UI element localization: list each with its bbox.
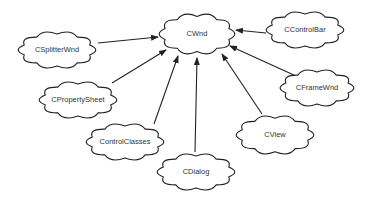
node-label: CPropertySheet	[51, 95, 105, 104]
edge-controlclasses-to-cwnd	[154, 56, 178, 124]
class-nodes: CWndCSplitterWndCControlBarCPropertyShee…	[18, 12, 354, 190]
class-hierarchy-diagram: CWndCSplitterWndCControlBarCPropertyShee…	[0, 0, 375, 202]
node-cframewnd[interactable]: CFrameWnd	[280, 70, 354, 106]
node-ccontrolbar[interactable]: CControlBar	[266, 12, 344, 48]
node-controlclasses[interactable]: ControlClasses	[86, 124, 164, 160]
edge-cdialog-to-cwnd	[195, 58, 197, 152]
node-label: CFrameWnd	[296, 83, 339, 92]
edge-cframewnd-to-cwnd	[230, 46, 296, 76]
node-label: ControlClasses	[100, 137, 151, 146]
node-cpropertysheet[interactable]: CPropertySheet	[39, 82, 117, 118]
edge-ccontrolbar-to-cwnd	[236, 30, 266, 33]
node-cwnd[interactable]: CWnd	[159, 14, 235, 54]
node-label: CControlBar	[284, 25, 326, 34]
edge-csplitterwnd-to-cwnd	[98, 37, 158, 43]
node-label: CWnd	[187, 29, 208, 38]
node-csplitterwnd[interactable]: CSplitterWnd	[18, 32, 96, 68]
node-cview[interactable]: CView	[236, 116, 314, 154]
node-label: CDialog	[183, 167, 210, 176]
node-label: CView	[264, 130, 286, 139]
node-label: CSplitterWnd	[35, 45, 79, 54]
edge-cpropertysheet-to-cwnd	[112, 50, 166, 83]
edge-cview-to-cwnd	[222, 54, 262, 114]
node-cdialog[interactable]: CDialog	[157, 154, 235, 190]
